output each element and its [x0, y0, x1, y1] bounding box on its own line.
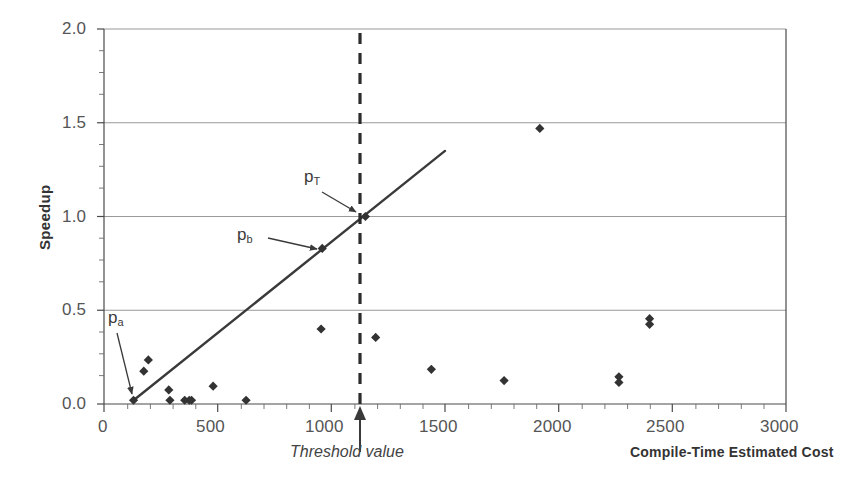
data-point	[209, 382, 218, 391]
annotation-p-b: pb	[237, 225, 253, 245]
ytick-label-1.5: 1.5	[62, 113, 86, 133]
annotation-p-a-sub: a	[117, 316, 123, 328]
ytick-label-2.0: 2.0	[62, 19, 86, 39]
gridlines	[104, 29, 786, 310]
ytick-label-1.0: 1.0	[62, 207, 86, 227]
data-point	[164, 385, 173, 394]
data-markers	[129, 124, 654, 405]
ytick-label-0.0: 0.0	[62, 394, 86, 414]
speedup-vs-cost-chart: 2.0 1.5 1.0 0.5 0.0 0 500 1000 1500 2000…	[0, 0, 849, 481]
data-point	[317, 324, 326, 333]
y-minor-ticks	[99, 51, 104, 376]
p-t-leader	[322, 192, 356, 212]
annotation-p-t: pT	[304, 167, 320, 187]
threshold-value-label: Threshold value	[290, 443, 404, 461]
xtick-label-500: 500	[196, 417, 225, 437]
trend-line	[134, 151, 445, 400]
y-axis-label: Speedup	[36, 185, 53, 250]
data-point	[645, 320, 654, 329]
p-a-leader	[117, 333, 132, 394]
data-point	[144, 355, 153, 364]
data-point	[535, 124, 544, 133]
annotation-p-a: pa	[108, 308, 124, 328]
annotation-p-b-sub: b	[246, 233, 252, 245]
xtick-label-3000: 3000	[760, 417, 799, 437]
annotation-p-t-sub: T	[313, 175, 320, 187]
xtick-label-0: 0	[98, 417, 108, 437]
plot-canvas	[0, 0, 849, 481]
xtick-label-2000: 2000	[533, 417, 572, 437]
data-point	[371, 333, 380, 342]
x-minor-ticks	[128, 404, 764, 409]
x-axis-label: Compile-Time Estimated Cost	[630, 444, 834, 460]
xtick-label-1500: 1500	[419, 417, 458, 437]
x-major-ticks	[104, 404, 786, 412]
xtick-label-2500: 2500	[646, 417, 685, 437]
data-point	[139, 367, 148, 376]
data-point	[427, 365, 436, 374]
xtick-label-1000: 1000	[305, 417, 344, 437]
data-point	[500, 376, 509, 385]
ytick-label-0.5: 0.5	[62, 300, 86, 320]
data-point	[614, 378, 623, 387]
p-b-leader	[268, 238, 317, 249]
y-major-ticks	[97, 29, 104, 404]
